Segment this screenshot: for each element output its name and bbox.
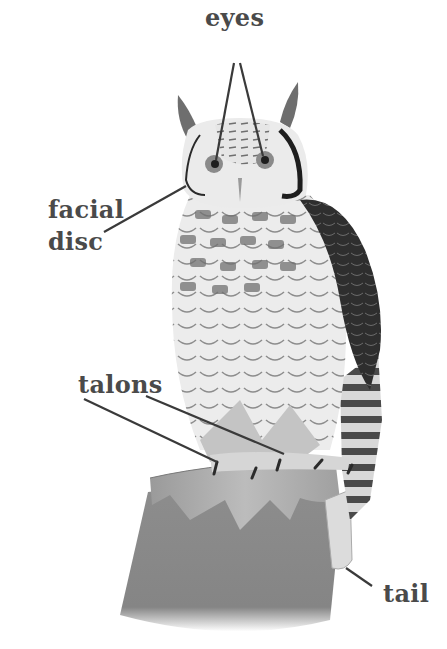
label-talons: talons	[78, 373, 163, 397]
label-eyes: eyes	[205, 6, 264, 30]
owl-body	[172, 195, 346, 462]
owl-illustration	[0, 0, 447, 649]
label-facial-disc: facial disc	[48, 194, 124, 258]
tree-stump	[120, 458, 340, 631]
owl-diagram: eyes facial disc talons tail	[0, 0, 447, 649]
label-facial-disc-line1: facial	[48, 194, 124, 226]
tail-leader	[346, 568, 372, 586]
wing-stripes	[340, 350, 382, 520]
ear-tuft-right	[280, 82, 298, 128]
label-tail: tail	[383, 582, 429, 606]
owl-head	[178, 82, 308, 208]
label-facial-disc-line2: disc	[48, 226, 124, 258]
